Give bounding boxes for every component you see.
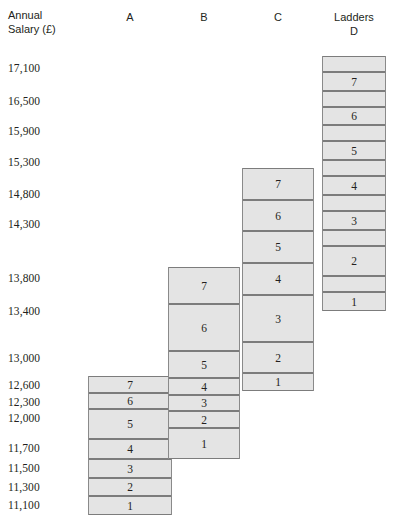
ladder-d[interactable]: 7654321 bbox=[322, 56, 386, 311]
ladder-rung[interactable]: 3 bbox=[243, 295, 313, 342]
ladder-rung[interactable]: 1 bbox=[323, 292, 385, 311]
ladder-spacer[interactable] bbox=[323, 56, 385, 72]
ladder-rung-label: 7 bbox=[201, 280, 207, 292]
salary-ladder-chart: Annual Salary (£) 17,10016,50015,90015,3… bbox=[0, 0, 398, 518]
ladder-rung-label: 6 bbox=[351, 110, 357, 122]
y-axis-tick: 14,800 bbox=[8, 188, 40, 200]
y-axis-tick: 12,000 bbox=[8, 412, 40, 424]
ladder-rung[interactable]: 7 bbox=[169, 267, 239, 304]
ladder-rung[interactable]: 4 bbox=[89, 439, 171, 459]
ladder-rung[interactable]: 3 bbox=[169, 395, 239, 411]
ladder-rung-label: 5 bbox=[127, 418, 133, 430]
y-axis-tick: 11,500 bbox=[8, 462, 40, 474]
y-axis-tick: 14,300 bbox=[8, 218, 40, 230]
header-a: A bbox=[88, 10, 172, 24]
ladder-spacer[interactable] bbox=[323, 230, 385, 246]
ladder-rung-label: 4 bbox=[201, 381, 207, 393]
ladder-spacer[interactable] bbox=[323, 125, 385, 141]
ladder-rung-label: 7 bbox=[127, 379, 133, 391]
ladder-spacer[interactable] bbox=[323, 276, 385, 292]
ladder-rung[interactable]: 4 bbox=[243, 263, 313, 295]
y-axis-tick: 13,000 bbox=[8, 352, 40, 364]
ladder-spacer[interactable] bbox=[323, 195, 385, 211]
ladder-rung[interactable]: 5 bbox=[169, 351, 239, 378]
ladder-spacer[interactable] bbox=[323, 91, 385, 107]
ladder-rung-label: 3 bbox=[201, 397, 207, 409]
ladder-rung-label: 4 bbox=[351, 180, 357, 192]
ladder-rung[interactable]: 3 bbox=[323, 211, 385, 230]
ladder-rung[interactable]: 1 bbox=[243, 373, 313, 391]
ladder-rung-label: 2 bbox=[275, 352, 281, 364]
ladder-rung[interactable]: 6 bbox=[243, 200, 313, 231]
ladder-rung-label: 2 bbox=[201, 414, 207, 426]
ladder-rung[interactable]: 7 bbox=[89, 376, 171, 393]
y-axis-title: Annual Salary (£) bbox=[8, 8, 56, 36]
ladder-rung-label: 5 bbox=[275, 241, 281, 253]
y-axis-tick: 11,300 bbox=[8, 481, 40, 493]
ladder-rung[interactable]: 5 bbox=[243, 231, 313, 263]
y-axis-tick: 12,300 bbox=[8, 396, 40, 408]
y-axis-tick: 11,700 bbox=[8, 442, 40, 454]
ladder-rung[interactable]: 6 bbox=[323, 107, 385, 125]
y-axis-tick: 11,100 bbox=[8, 499, 40, 511]
ladder-rung[interactable]: 6 bbox=[89, 393, 171, 409]
y-axis-tick: 13,800 bbox=[8, 272, 40, 284]
ladder-c[interactable]: 7654321 bbox=[242, 168, 314, 391]
ladder-b[interactable]: 7654321 bbox=[168, 267, 240, 459]
header-c: C bbox=[242, 10, 314, 24]
ladder-rung[interactable]: 5 bbox=[89, 409, 171, 439]
ladder-rung[interactable]: 4 bbox=[323, 176, 385, 195]
ladder-rung[interactable]: 3 bbox=[89, 459, 171, 478]
ladder-rung-label: 1 bbox=[275, 376, 281, 388]
y-axis-tick: 12,600 bbox=[8, 379, 40, 391]
ladder-rung[interactable]: 2 bbox=[169, 411, 239, 428]
ladder-rung-label: 5 bbox=[201, 359, 207, 371]
ladder-rung-label: 3 bbox=[275, 313, 281, 325]
y-axis-tick: 15,900 bbox=[8, 125, 40, 137]
ladder-rung[interactable]: 1 bbox=[89, 496, 171, 515]
ladder-rung[interactable]: 2 bbox=[89, 478, 171, 496]
ladder-rung[interactable]: 7 bbox=[243, 168, 313, 200]
ladder-rung[interactable]: 4 bbox=[169, 378, 239, 395]
header-d: Ladders D bbox=[322, 10, 386, 38]
y-axis-tick: 13,400 bbox=[8, 305, 40, 317]
ladder-rung-label: 3 bbox=[351, 215, 357, 227]
ladder-rung-label: 2 bbox=[127, 481, 133, 493]
ladder-rung-label: 6 bbox=[201, 322, 207, 334]
ladder-rung-label: 6 bbox=[127, 395, 133, 407]
ladder-a[interactable]: 7654321 bbox=[88, 376, 172, 515]
ladder-rung-label: 4 bbox=[275, 273, 281, 285]
ladder-rung-label: 7 bbox=[351, 76, 357, 88]
ladder-rung[interactable]: 6 bbox=[169, 304, 239, 351]
ladder-rung[interactable]: 2 bbox=[243, 342, 313, 373]
ladder-rung[interactable]: 1 bbox=[169, 428, 239, 459]
ladder-rung-label: 1 bbox=[201, 438, 207, 450]
y-axis-tick: 16,500 bbox=[8, 95, 40, 107]
ladder-rung-label: 1 bbox=[351, 296, 357, 308]
y-axis-tick: 15,300 bbox=[8, 156, 40, 168]
ladder-rung-label: 3 bbox=[127, 463, 133, 475]
ladder-rung[interactable]: 2 bbox=[323, 246, 385, 276]
ladder-rung-label: 7 bbox=[275, 178, 281, 190]
y-axis-tick: 17,100 bbox=[8, 62, 40, 74]
ladder-rung[interactable]: 5 bbox=[323, 141, 385, 160]
ladder-rung-label: 4 bbox=[127, 443, 133, 455]
header-b: B bbox=[168, 10, 240, 24]
ladder-rung-label: 1 bbox=[127, 500, 133, 512]
ladder-rung-label: 2 bbox=[351, 255, 357, 267]
ladder-rung-label: 6 bbox=[275, 210, 281, 222]
ladder-rung[interactable]: 7 bbox=[323, 72, 385, 91]
ladder-rung-label: 5 bbox=[351, 145, 357, 157]
ladder-spacer[interactable] bbox=[323, 160, 385, 176]
